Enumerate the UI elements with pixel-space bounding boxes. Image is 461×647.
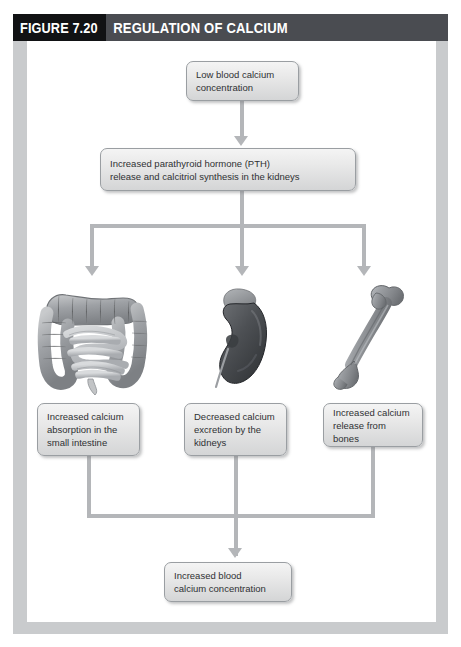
connector-branch-kidney-arrowhead <box>235 266 249 276</box>
flow-box-intestine-effect[interactable]: Increased calcium absorption in the smal… <box>37 403 140 456</box>
figure-page: FIGURE 7.20 REGULATION OF CALCIUM <box>0 0 461 647</box>
flow-box-increased-calcium-line-1: Increased blood <box>174 569 266 582</box>
connector-merge-bone-line <box>371 447 375 518</box>
flow-box-increased-calcium-line-2: calcium concentration <box>174 582 266 595</box>
flow-box-low-calcium-line-2: concentration <box>196 81 274 94</box>
connector-branch-bone-arrowhead <box>357 266 371 276</box>
connector-low-calcium-to-pth-arrowhead <box>234 136 248 146</box>
flow-box-low-calcium-line-1: Low blood calcium <box>196 68 274 81</box>
connector-branch-kidney-line <box>240 224 244 270</box>
figure-header: FIGURE 7.20 REGULATION OF CALCIUM <box>13 14 448 41</box>
bone-illustration <box>330 281 408 393</box>
flow-box-pth-line-1: Increased parathyroid hormone (PTH) <box>110 157 300 170</box>
flow-box-kidney-effect[interactable]: Decreased calcium excretion by the kidne… <box>184 403 287 456</box>
flow-box-pth-line-2: release and calcitriol synthesis in the … <box>110 170 300 183</box>
flow-box-bone-effect[interactable]: Increased calcium release from bones <box>323 403 423 447</box>
connector-branch-bone-line <box>362 224 366 270</box>
figure-title-label: REGULATION OF CALCIUM <box>106 20 288 36</box>
connector-merge-arrowhead <box>228 548 242 558</box>
connector-merge-kidney-line <box>234 456 238 556</box>
connector-low-calcium-to-pth-line <box>240 101 244 138</box>
figure-number-label: FIGURE 7.20 <box>13 20 106 36</box>
intestine-illustration <box>33 279 151 396</box>
flow-box-pth[interactable]: Increased parathyroid hormone (PTH) rele… <box>100 148 356 191</box>
flow-box-low-calcium[interactable]: Low blood calcium concentration <box>186 61 299 101</box>
kidney-illustration <box>208 283 274 395</box>
flow-box-intestine-effect-line-1: Increased calcium <box>47 410 124 423</box>
flow-box-intestine-effect-line-3: small intestine <box>47 436 124 449</box>
figure-title-band: REGULATION OF CALCIUM <box>106 14 448 41</box>
connector-merge-intestine-line <box>87 456 91 518</box>
flow-box-bone-effect-line-2: release from bones <box>333 419 413 445</box>
connector-pth-stem <box>240 191 244 224</box>
flow-box-increased-calcium[interactable]: Increased blood calcium concentration <box>164 562 292 602</box>
connector-distribution-bar <box>90 224 366 228</box>
connector-branch-intestine-arrowhead <box>85 266 99 276</box>
flow-box-intestine-effect-line-2: absorption in the <box>47 423 124 436</box>
flow-box-kidney-effect-line-2: excretion by the <box>194 423 275 436</box>
connector-branch-intestine-line <box>90 224 94 270</box>
connector-merge-bar <box>87 514 375 518</box>
flow-box-kidney-effect-line-3: kidneys <box>194 436 275 449</box>
flow-box-bone-effect-line-1: Increased calcium <box>333 406 413 419</box>
flow-box-kidney-effect-line-1: Decreased calcium <box>194 410 275 423</box>
figure-number-badge: FIGURE 7.20 <box>13 14 106 41</box>
